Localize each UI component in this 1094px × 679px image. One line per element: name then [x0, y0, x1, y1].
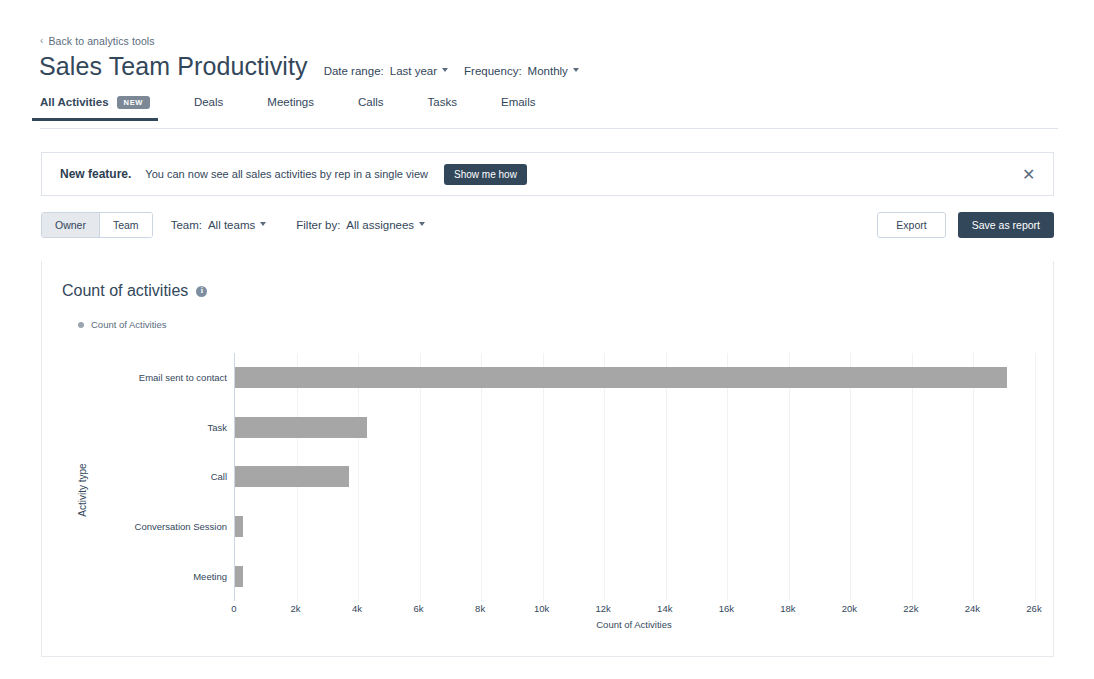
date-range-value: Last year — [390, 65, 437, 77]
assignee-filter-value: All assignees — [346, 219, 414, 231]
frequency-value: Monthly — [528, 65, 568, 77]
team-filter-label: Team: — [171, 219, 202, 231]
breadcrumb-label: Back to analytics tools — [48, 35, 154, 47]
tab-all-activities[interactable]: All ActivitiesNEW — [40, 96, 150, 120]
filter-bar: OwnerTeam Team: All teams Filter by: All… — [41, 208, 1054, 242]
bar[interactable] — [235, 566, 243, 587]
tab-label: Deals — [194, 96, 223, 108]
plot-area: Email sent to contactTaskCallConversatio… — [234, 353, 1034, 601]
frequency-select[interactable]: Monthly — [528, 65, 579, 77]
x-axis-tick-label: 8k — [475, 603, 485, 614]
bar-row: Task — [235, 403, 1034, 453]
tab-label: Calls — [358, 96, 384, 108]
bar-row: Conversation Session — [235, 502, 1034, 552]
bar[interactable] — [235, 367, 1007, 388]
x-axis-title: Count of Activities — [234, 619, 1034, 630]
y-axis-tick-label: Task — [207, 422, 227, 433]
bar-row: Meeting — [235, 551, 1034, 601]
info-icon[interactable]: i — [196, 286, 207, 297]
bar-chart: Activity type Email sent to contactTaskC… — [62, 345, 1042, 635]
tab-label: All Activities — [40, 96, 109, 108]
assignee-filter-label: Filter by: — [296, 219, 340, 231]
tab-meetings[interactable]: Meetings — [267, 96, 314, 119]
x-axis-tick-label: 24k — [965, 603, 980, 614]
y-axis-title: Activity type — [77, 463, 88, 516]
x-axis-tick-label: 20k — [842, 603, 857, 614]
new-badge: NEW — [117, 96, 150, 109]
x-axis-tick-label: 26k — [1026, 603, 1041, 614]
team-filter: Team: All teams — [171, 219, 267, 231]
bar[interactable] — [235, 466, 349, 487]
bar[interactable] — [235, 417, 367, 438]
x-axis-tick-label: 12k — [596, 603, 611, 614]
chevron-down-icon — [442, 68, 448, 72]
legend-swatch-icon — [78, 322, 84, 328]
breadcrumb-back-link[interactable]: ‹ Back to analytics tools — [40, 35, 155, 47]
segment-team[interactable]: Team — [100, 213, 152, 237]
bar[interactable] — [235, 516, 243, 537]
bar-row: Email sent to contact — [235, 353, 1034, 403]
y-axis-tick-label: Email sent to contact — [139, 372, 227, 383]
chart-card: Count of activities i Count of Activitie… — [41, 261, 1054, 657]
chart-title-text: Count of activities — [62, 282, 188, 300]
export-button[interactable]: Export — [877, 212, 945, 238]
gridline — [1035, 353, 1036, 601]
tab-emails[interactable]: Emails — [501, 96, 536, 119]
y-axis-tick-label: Call — [211, 471, 227, 482]
page-title: Sales Team Productivity — [39, 52, 308, 81]
x-axis-tick-label: 18k — [780, 603, 795, 614]
action-buttons: Export Save as report — [877, 212, 1054, 238]
x-axis-tick-label: 0 — [231, 603, 236, 614]
y-axis-tick-label: Meeting — [193, 571, 227, 582]
chevron-down-icon — [573, 68, 579, 72]
x-axis-tick-label: 6k — [414, 603, 424, 614]
assignee-filter-select[interactable]: All assignees — [346, 219, 425, 231]
banner-headline: New feature. — [60, 167, 131, 181]
assignee-filter: Filter by: All assignees — [296, 219, 425, 231]
close-icon[interactable]: ✕ — [1017, 163, 1039, 185]
owner-team-toggle: OwnerTeam — [41, 212, 153, 238]
x-axis-tick-label: 2k — [291, 603, 301, 614]
tab-calls[interactable]: Calls — [358, 96, 384, 119]
tab-label: Emails — [501, 96, 536, 108]
save-as-report-button[interactable]: Save as report — [958, 212, 1054, 238]
banner-message: You can now see all sales activities by … — [145, 168, 428, 180]
x-axis-tick-label: 14k — [657, 603, 672, 614]
tab-bar: All ActivitiesNEWDealsMeetingsCallsTasks… — [40, 96, 1058, 129]
team-filter-value: All teams — [208, 219, 255, 231]
tab-tasks[interactable]: Tasks — [428, 96, 457, 119]
new-feature-banner: New feature. You can now see all sales a… — [41, 152, 1054, 196]
x-axis-tick-label: 4k — [352, 603, 362, 614]
tab-label: Tasks — [428, 96, 457, 108]
chart-title: Count of activities i — [62, 282, 207, 300]
x-axis-tick-label: 22k — [903, 603, 918, 614]
date-range-control: Date range: Last year — [324, 65, 448, 77]
tab-label: Meetings — [267, 96, 314, 108]
frequency-label: Frequency: — [464, 65, 522, 77]
bar-row: Call — [235, 452, 1034, 502]
show-me-how-button[interactable]: Show me how — [444, 164, 527, 185]
date-range-select[interactable]: Last year — [390, 65, 448, 77]
x-axis-ticks: 02k4k6k8k10k12k14k16k18k20k22k24k26k — [234, 603, 1034, 619]
x-axis-tick-label: 16k — [719, 603, 734, 614]
chart-legend[interactable]: Count of Activities — [78, 319, 167, 330]
chevron-left-icon: ‹ — [40, 36, 43, 46]
analytics-page: ‹ Back to analytics tools Sales Team Pro… — [0, 0, 1094, 679]
y-axis-tick-label: Conversation Session — [135, 521, 227, 532]
chevron-down-icon — [260, 222, 266, 226]
title-row: Sales Team Productivity Date range: Last… — [39, 52, 579, 81]
x-axis-tick-label: 10k — [534, 603, 549, 614]
chevron-down-icon — [419, 222, 425, 226]
tab-deals[interactable]: Deals — [194, 96, 223, 119]
frequency-control: Frequency: Monthly — [464, 65, 579, 77]
team-filter-select[interactable]: All teams — [208, 219, 266, 231]
segment-owner[interactable]: Owner — [42, 213, 100, 237]
legend-label: Count of Activities — [91, 319, 167, 330]
date-range-label: Date range: — [324, 65, 384, 77]
